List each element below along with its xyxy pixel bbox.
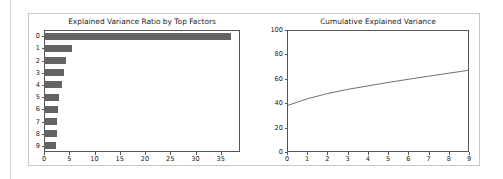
bar-row: 7 <box>44 118 240 125</box>
bar-y-tick-mark <box>42 109 45 110</box>
bar-rect <box>44 45 72 52</box>
bar-x-tick-label: 0 <box>42 156 46 163</box>
bar-y-tick-mark <box>42 146 45 147</box>
bar-row: 5 <box>44 94 240 101</box>
line-x-tick-label: 9 <box>467 156 471 163</box>
line-y-tick-mark <box>285 54 288 55</box>
bar-rect <box>44 33 231 40</box>
line-x-tick-label: 1 <box>305 156 309 163</box>
bar-y-tick-label: 7 <box>36 118 40 125</box>
bar-x-tick-label: 25 <box>166 156 174 163</box>
bar-row: 0 <box>44 33 240 40</box>
line-y-tick-mark <box>285 79 288 80</box>
bar-x-tick-label: 5 <box>67 156 71 163</box>
figure-canvas: Explained Variance Ratio by Top Factors … <box>0 0 503 179</box>
cumulative-variance-line <box>287 30 469 152</box>
bar-rect <box>44 142 56 149</box>
bar-y-tick-label: 8 <box>36 130 40 137</box>
line-y-tick-label: 80 <box>275 51 283 58</box>
line-y-tick-mark <box>285 103 288 104</box>
bar-y-tick-mark <box>42 73 45 74</box>
line-chart-axes: Cumulative Explained Variance 0204060801… <box>287 30 469 152</box>
line-y-tick-mark <box>285 128 288 129</box>
bar-y-tick-mark <box>42 48 45 49</box>
figure-panel: Explained Variance Ratio by Top Factors … <box>28 13 480 166</box>
bar-chart-title: Explained Variance Ratio by Top Factors <box>44 17 240 26</box>
bar-rect <box>44 81 62 88</box>
bar-x-tick-label: 35 <box>217 156 225 163</box>
line-y-tick-label: 40 <box>275 100 283 107</box>
line-x-tick-label: 3 <box>346 156 350 163</box>
bar-y-tick-mark <box>42 85 45 86</box>
bar-y-tick-mark <box>42 122 45 123</box>
bar-y-tick-label: 2 <box>36 57 40 64</box>
bar-y-tick-label: 3 <box>36 69 40 76</box>
line-y-tick-label: 20 <box>275 124 283 131</box>
line-x-tick-label: 8 <box>447 156 451 163</box>
bar-row: 8 <box>44 130 240 137</box>
line-x-tick-label: 5 <box>386 156 390 163</box>
bar-y-tick-label: 4 <box>36 82 40 89</box>
bar-rect <box>44 130 57 137</box>
bar-x-tick-label: 10 <box>90 156 98 163</box>
line-x-tick-label: 2 <box>325 156 329 163</box>
bar-y-tick-mark <box>42 61 45 62</box>
bar-y-tick-label: 5 <box>36 94 40 101</box>
line-x-tick-label: 0 <box>285 156 289 163</box>
page-gutter-rule <box>10 0 11 179</box>
bar-x-tick-label: 30 <box>191 156 199 163</box>
bar-y-tick-label: 0 <box>36 33 40 40</box>
bar-x-tick-label: 15 <box>116 156 124 163</box>
bar-rect <box>44 94 59 101</box>
bar-row: 1 <box>44 45 240 52</box>
bar-y-tick-label: 1 <box>36 45 40 52</box>
bar-row: 4 <box>44 81 240 88</box>
bar-rect <box>44 106 58 113</box>
line-y-tick-label: 60 <box>275 76 283 83</box>
line-y-tick-label: 0 <box>279 149 283 156</box>
bar-row: 3 <box>44 69 240 76</box>
line-x-tick-label: 7 <box>426 156 430 163</box>
bar-chart-axes: Explained Variance Ratio by Top Factors … <box>44 30 240 152</box>
bar-rect <box>44 57 66 64</box>
bar-row: 6 <box>44 106 240 113</box>
bar-row: 9 <box>44 142 240 149</box>
bar-y-tick-label: 9 <box>36 143 40 150</box>
bar-row: 2 <box>44 57 240 64</box>
bar-rect <box>44 118 57 125</box>
line-x-tick-label: 6 <box>406 156 410 163</box>
bar-rect <box>44 69 64 76</box>
line-y-tick-mark <box>285 30 288 31</box>
line-chart-title: Cumulative Explained Variance <box>287 17 469 26</box>
bar-y-tick-mark <box>42 134 45 135</box>
bar-y-tick-mark <box>42 36 45 37</box>
bar-y-tick-mark <box>42 97 45 98</box>
bar-y-tick-label: 6 <box>36 106 40 113</box>
line-x-tick-label: 4 <box>366 156 370 163</box>
line-y-tick-label: 100 <box>270 27 283 34</box>
bar-x-tick-label: 20 <box>141 156 149 163</box>
